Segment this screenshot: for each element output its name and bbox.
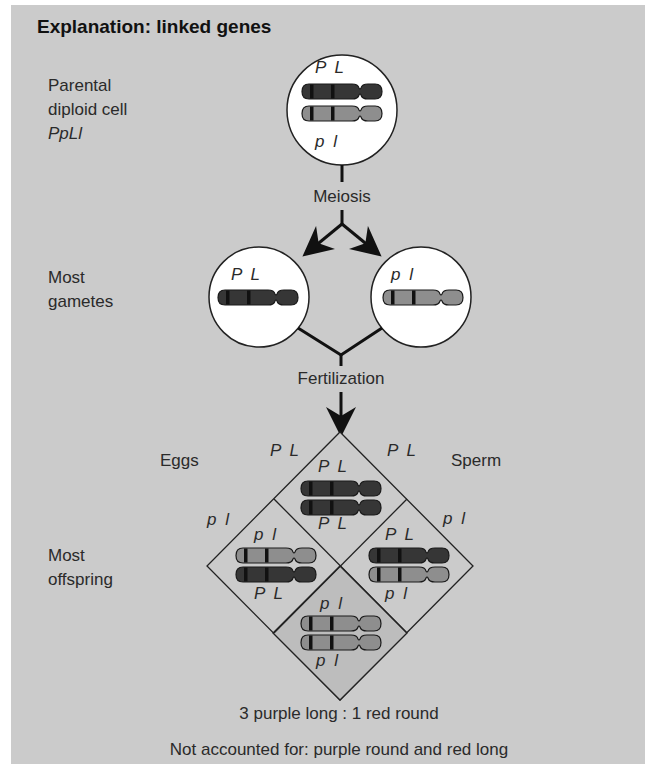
sperm-allele-pl: p l — [443, 509, 467, 529]
parental-bottom-allele: p l — [315, 132, 339, 152]
chromosome-pl — [302, 106, 382, 121]
cell-bottom-top-label: p l — [320, 594, 344, 614]
gametes-label-line1: Most — [48, 266, 113, 290]
parental-label: Parental diploid cell PpLl — [48, 74, 127, 146]
arrow-left-icon — [314, 224, 342, 247]
parental-label-line2: diploid cell — [48, 98, 127, 122]
gamete-PL — [209, 247, 309, 347]
chromosome-PL — [302, 84, 382, 99]
parental-label-line1: Parental — [48, 74, 127, 98]
offspring-label: Most offspring — [48, 544, 113, 592]
parental-top-allele: P L — [315, 58, 346, 78]
cell-right-bottom-label: p l — [385, 584, 409, 604]
cell-left-bottom-label: P L — [254, 584, 285, 604]
gametes-label-line2: gametes — [48, 290, 113, 314]
meiosis-label: Meiosis — [313, 187, 371, 207]
note-unaccounted: Not accounted for: purple round and red … — [170, 740, 508, 760]
sperm-label: Sperm — [451, 449, 501, 473]
sperm-allele-PL: P L — [387, 441, 418, 461]
parental-genotype: PpLl — [48, 122, 127, 146]
result-ratio: 3 purple long : 1 red round — [239, 704, 438, 724]
gamete-PL-allele: P L — [231, 265, 262, 285]
arrow-right-icon — [342, 224, 370, 247]
cell-right-top-label: P L — [385, 525, 416, 545]
gamete-pl-allele: p l — [391, 265, 415, 285]
egg-allele-pl: p l — [207, 510, 231, 530]
cell-top-top-label: P L — [318, 457, 349, 477]
offspring-label-line2: offspring — [48, 568, 113, 592]
offspring-label-line1: Most — [48, 544, 113, 568]
cell-top-bottom-label: P L — [318, 514, 349, 534]
figure-title: Explanation: linked genes — [37, 16, 271, 38]
cell-left-top-label: p l — [254, 525, 278, 545]
egg-allele-PL: P L — [270, 441, 301, 461]
cell-bottom-bottom-label: p l — [316, 651, 340, 671]
gamete-pl — [371, 247, 471, 347]
gametes-label: Most gametes — [48, 266, 113, 314]
eggs-label: Eggs — [160, 449, 199, 473]
fertilization-label: Fertilization — [298, 369, 385, 389]
